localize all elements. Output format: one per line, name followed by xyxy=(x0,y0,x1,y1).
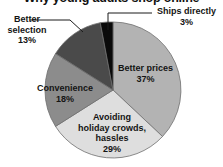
slice-label-convenience-name: Convenience xyxy=(37,83,93,94)
slice-label-better-selection-value: 13% xyxy=(2,35,52,46)
slice-label-avoiding-line2: holiday crowds, xyxy=(70,123,154,134)
slice-label-convenience-value: 18% xyxy=(37,94,93,105)
slice-label-avoiding-line1: Avoiding xyxy=(70,112,154,123)
slice-label-better-prices-name: Better prices xyxy=(118,63,173,74)
slice-label-better-selection: Better selection 13% xyxy=(2,14,52,46)
slice-label-convenience: Convenience 18% xyxy=(37,83,93,104)
slice-label-ships-directly: Ships directly 3% xyxy=(150,6,223,27)
slice-label-ships-directly-value: 3% xyxy=(150,17,223,28)
slice-label-avoiding-holiday-crowds: Avoiding holiday crowds, hassles 29% xyxy=(70,112,154,154)
slice-label-better-selection-line2: selection xyxy=(2,25,52,36)
slice-label-better-prices: Better prices 37% xyxy=(118,63,173,84)
slice-label-avoiding-value: 29% xyxy=(70,144,154,155)
slice-label-ships-directly-name: Ships directly xyxy=(150,6,223,17)
slice-label-avoiding-line3: hassles xyxy=(70,133,154,144)
slice-label-better-prices-value: 37% xyxy=(118,74,173,85)
pie-chart-figure: Why young adults shop online Better pric… xyxy=(0,0,223,167)
slice-label-better-selection-line1: Better xyxy=(2,14,52,25)
